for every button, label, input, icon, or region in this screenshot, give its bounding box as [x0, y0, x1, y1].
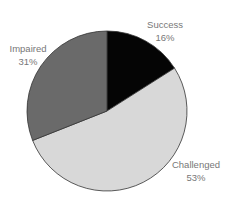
label-success-name: Success: [140, 18, 190, 31]
label-success: Success 16%: [140, 18, 190, 44]
label-challenged: Challenged 53%: [168, 158, 224, 184]
label-impaired-name: Impaired: [4, 42, 52, 55]
label-challenged-pct: 53%: [168, 171, 224, 184]
label-challenged-name: Challenged: [168, 158, 224, 171]
label-impaired: Impaired 31%: [4, 42, 52, 68]
label-impaired-pct: 31%: [4, 55, 52, 68]
label-success-pct: 16%: [140, 31, 190, 44]
